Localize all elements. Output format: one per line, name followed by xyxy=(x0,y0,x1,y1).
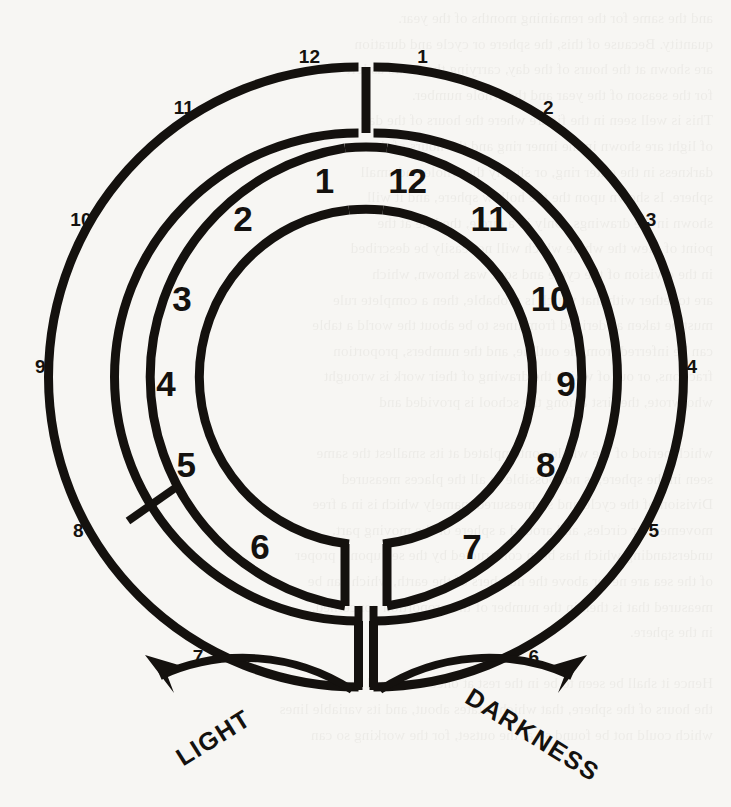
figure-root: and the same for the remaining months of… xyxy=(0,0,731,807)
direction-label-group: LIGHT DARKNESS xyxy=(171,682,605,786)
outer-hour-12: 12 xyxy=(299,46,320,67)
outer-hour-1: 1 xyxy=(417,46,428,67)
inner-hour-6: 6 xyxy=(250,527,269,566)
outer-hour-9: 9 xyxy=(35,356,46,377)
inner-hour-9: 9 xyxy=(556,364,575,403)
outer-hour-10: 10 xyxy=(70,209,91,230)
inner-hour-4: 4 xyxy=(156,364,176,403)
inner-hour-5: 5 xyxy=(176,445,195,484)
outer-hour-5: 5 xyxy=(649,520,660,541)
inner-hour-10: 10 xyxy=(531,279,570,318)
darkness-arrowhead-icon xyxy=(550,655,587,693)
inner-hour-2: 2 xyxy=(233,199,252,238)
darkness-label: DARKNESS xyxy=(461,682,605,786)
inner-ring-top-join-left xyxy=(345,147,387,148)
outer-hour-6: 6 xyxy=(529,646,540,667)
inner-ring-number-group: 123456789101112 xyxy=(156,161,575,565)
inner-hour-11: 11 xyxy=(471,199,508,238)
inner-ring-inner-arc-left xyxy=(199,210,349,544)
inner-hour-8: 8 xyxy=(536,445,555,484)
inner-hour-7: 7 xyxy=(462,527,481,566)
inner-ring-inner-arc-right xyxy=(383,210,533,544)
inner-ring-top-join-inner xyxy=(349,209,383,210)
outer-hour-2: 2 xyxy=(543,97,554,118)
outer-hour-8: 8 xyxy=(73,520,84,541)
inner-hour-3: 3 xyxy=(172,279,191,318)
outer-hour-11: 11 xyxy=(174,97,195,118)
dial-diagram: 123456789101112 121110987654321 LIGHT DA… xyxy=(0,0,731,807)
inner-hour-1: 1 xyxy=(315,161,334,200)
outer-ring-number-group: 121110987654321 xyxy=(35,46,698,667)
light-label: LIGHT xyxy=(171,704,256,771)
inner-hour-12: 12 xyxy=(388,161,427,200)
outer-hour-7: 7 xyxy=(193,646,204,667)
dial-rings xyxy=(48,67,683,690)
light-arrowhead-icon xyxy=(145,655,182,693)
outer-hour-3: 3 xyxy=(646,209,657,230)
direction-arrows xyxy=(160,658,572,690)
outer-hour-4: 4 xyxy=(687,356,698,377)
